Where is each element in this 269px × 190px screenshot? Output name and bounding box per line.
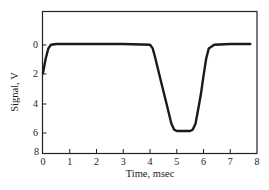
signal-line — [43, 44, 250, 131]
x-tick-label: 5 — [174, 157, 179, 167]
x-tick-label: 2 — [94, 157, 99, 167]
plot-frame — [43, 12, 258, 154]
y-tick-label: 0 — [26, 40, 38, 50]
x-tick-label: 4 — [148, 157, 153, 167]
y-axis-label: Signal, V — [9, 72, 20, 111]
y-tick-label: 2 — [26, 69, 38, 79]
x-tick-label: 1 — [67, 157, 72, 167]
y-tick-label: 4 — [26, 99, 38, 109]
x-axis-ticks — [70, 149, 231, 154]
x-axis-label: Time, msec — [126, 168, 175, 179]
x-tick-label: 0 — [41, 157, 46, 167]
x-tick-label: 7 — [228, 157, 233, 167]
x-tick-label: 8 — [255, 157, 260, 167]
y-tick-label: 8 — [27, 147, 39, 157]
x-tick-label: 6 — [201, 157, 206, 167]
y-tick-label: 6 — [26, 128, 38, 138]
x-tick-label: 3 — [121, 157, 126, 167]
